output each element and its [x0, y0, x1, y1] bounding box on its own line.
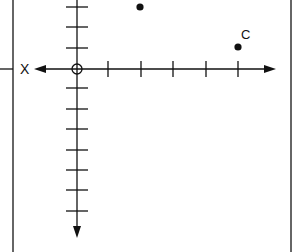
- point-c: [234, 43, 241, 50]
- x-axis-label: X: [20, 62, 29, 76]
- point-label-c: C: [241, 28, 250, 41]
- x-axis-left-arrow-icon: [34, 65, 46, 73]
- plotted-points: [136, 3, 241, 50]
- point-b: [136, 3, 143, 10]
- y-axis-down-arrow-icon: [73, 226, 81, 238]
- x-axis-right-arrow-icon: [264, 65, 276, 73]
